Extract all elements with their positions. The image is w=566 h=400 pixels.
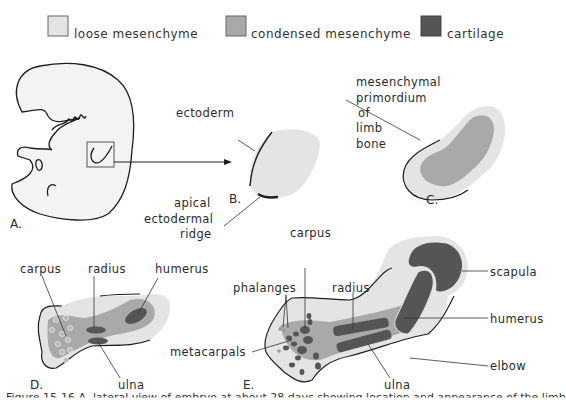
e-ulna-leader: [368, 344, 390, 378]
panel-c-primordium: mesenchymal primordium of limb bone C.: [346, 75, 505, 207]
limb-bud-mesenchyme: [250, 129, 320, 198]
panel-d-label: D.: [30, 378, 43, 392]
legend-label-cartilage: cartilage: [447, 27, 504, 41]
legend-item-loose: loose mesenchyme: [48, 16, 198, 41]
label-c-line3: of: [358, 106, 370, 120]
ectoderm-leader: [238, 140, 255, 151]
e-elbow-leader: [410, 358, 488, 366]
e-label-humerus: humerus: [490, 312, 544, 326]
d-ulna: [88, 338, 108, 345]
label-c-line2: primordium: [356, 91, 427, 105]
legend-swatch-cartilage: [421, 16, 441, 36]
panel-b-label: B.: [229, 192, 241, 206]
legend-label-condensed: condensed mesenchyme: [251, 27, 411, 41]
panel-d-limb: carpus radius humerus ulna D.: [20, 262, 209, 392]
embryo-body: [12, 63, 134, 220]
legend-item-cartilage: cartilage: [421, 16, 504, 41]
legend-label-loose: loose mesenchyme: [74, 27, 198, 41]
e-label-ulna: ulna: [384, 378, 410, 392]
label-c-line4: limb: [356, 121, 383, 135]
legend-swatch-condensed: [226, 16, 246, 36]
d-ulna-leader: [98, 342, 120, 378]
panel-b-limb-bud: ectoderm apical ectodermal ridge B.: [144, 106, 320, 241]
label-ectoderm: ectoderm: [176, 106, 234, 120]
arrowhead-icon: [224, 159, 232, 165]
legend: loose mesenchyme condensed mesenchyme ca…: [48, 16, 504, 41]
e-label-elbow: elbow: [490, 359, 526, 373]
legend-item-condensed: condensed mesenchyme: [226, 16, 411, 41]
label-aer-line3: ridge: [180, 227, 212, 241]
d-label-humerus: humerus: [155, 262, 209, 276]
panel-a-label: A.: [10, 217, 22, 231]
label-aer-line2: ectodermal: [144, 212, 213, 226]
e-label-scapula: scapula: [490, 265, 537, 279]
e-label-metacarpals: metacarpals: [170, 345, 246, 359]
e-label-carpus: carpus: [290, 226, 331, 240]
panel-e-label: E.: [243, 378, 254, 392]
label-aer-line1: apical: [174, 196, 211, 210]
d-label-carpus: carpus: [20, 262, 61, 276]
d-radius: [86, 327, 106, 334]
e-label-phalanges: phalanges: [233, 281, 296, 295]
panel-c-label: C.: [426, 193, 438, 207]
d-label-radius: radius: [88, 262, 126, 276]
d-label-ulna: ulna: [118, 378, 144, 392]
label-c-line1: mesenchymal: [356, 75, 441, 89]
e-label-radius: radius: [332, 281, 370, 295]
label-c-line5: bone: [356, 137, 386, 151]
legend-swatch-loose: [48, 16, 68, 36]
panel-e-limb: phalanges carpus radius scapula humerus …: [170, 226, 544, 392]
